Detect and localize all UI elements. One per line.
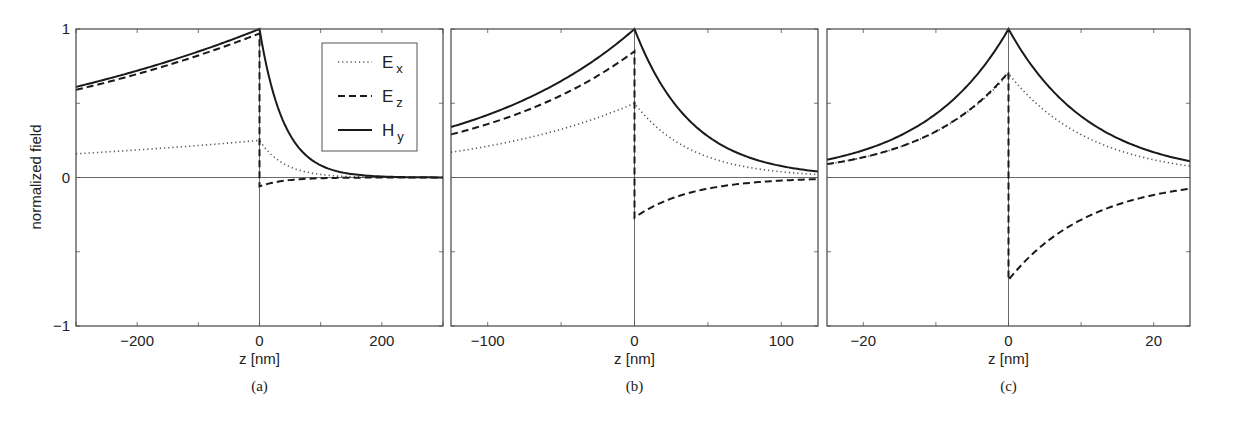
x-tick-label: 20 (1145, 332, 1162, 349)
y-tick-label: −1 (53, 317, 70, 334)
x-tick-label: 200 (369, 332, 394, 349)
panel-c: −20020z [nm](c) (827, 29, 1190, 395)
x-axis-label: z [nm] (988, 350, 1029, 367)
panel-a: −2000200−101z [nm](a)ExEzHy (53, 20, 443, 395)
legend: ExEzHy (322, 43, 417, 151)
x-tick-label: −100 (471, 332, 505, 349)
panel-caption: (b) (626, 378, 644, 395)
x-tick-label: 0 (1004, 332, 1012, 349)
figure: normalized field −2000200−101z [nm](a)Ex… (0, 0, 1236, 433)
panel-caption: (a) (251, 378, 268, 395)
y-axis-label: normalized field (27, 124, 44, 229)
panel-b: −1000100z [nm](b) (451, 29, 818, 395)
x-tick-label: 0 (630, 332, 638, 349)
x-tick-label: −200 (120, 332, 154, 349)
x-axis-label: z [nm] (239, 350, 280, 367)
x-tick-label: 0 (255, 332, 263, 349)
panel-caption: (c) (1000, 378, 1017, 395)
x-tick-label: 100 (769, 332, 794, 349)
y-tick-label: 1 (62, 20, 70, 37)
y-tick-label: 0 (62, 169, 70, 186)
x-axis-label: z [nm] (614, 350, 655, 367)
x-tick-label: −20 (851, 332, 876, 349)
